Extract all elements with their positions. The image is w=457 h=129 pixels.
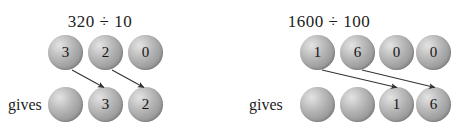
- sphere-top-left-3: 0: [128, 35, 163, 70]
- diagram-division-by-10: 320 ÷ 10 gives 3 2 0 3 2: [0, 0, 229, 129]
- digit-bottom-left-2: 3: [88, 87, 123, 122]
- arrow-shift-digit-3: [72, 70, 104, 88]
- digit-bottom-right-4: 6: [416, 87, 451, 122]
- gives-label-left: gives: [8, 96, 42, 114]
- digit-bottom-right-2: [340, 87, 375, 122]
- sphere-top-left-2: 2: [88, 35, 123, 70]
- digit-top-right-1: 1: [300, 35, 335, 70]
- arrow-shift-digit-6: [362, 70, 435, 88]
- sphere-top-right-1: 1: [300, 35, 335, 70]
- digit-bottom-right-1: [300, 87, 335, 122]
- sphere-top-right-3: 0: [379, 35, 414, 70]
- expression-320-divided-by-10: 320 ÷ 10: [0, 12, 200, 32]
- digit-top-right-3: 0: [379, 35, 414, 70]
- sphere-top-right-4: 0: [416, 35, 451, 70]
- digit-bottom-left-1: [48, 87, 83, 122]
- digit-top-left-2: 2: [88, 35, 123, 70]
- digit-bottom-left-3: 2: [128, 87, 163, 122]
- diagram-division-by-100: 1600 ÷ 100 gives 1 6 0 0: [229, 0, 457, 129]
- sphere-top-right-2: 6: [340, 35, 375, 70]
- gives-label-right: gives: [249, 96, 283, 114]
- digit-top-left-1: 3: [48, 35, 83, 70]
- sphere-bottom-right-4: 6: [416, 87, 451, 122]
- digit-top-left-3: 0: [128, 35, 163, 70]
- arrow-shift-digit-1: [322, 70, 397, 88]
- sphere-bottom-right-3: 1: [379, 87, 414, 122]
- sphere-bottom-right-1: [300, 87, 335, 122]
- sphere-bottom-left-3: 2: [128, 87, 163, 122]
- sphere-bottom-left-1: [48, 87, 83, 122]
- place-value-division-figure: 320 ÷ 10 gives 3 2 0 3 2: [0, 0, 457, 129]
- sphere-bottom-left-2: 3: [88, 87, 123, 122]
- digit-top-right-2: 6: [340, 35, 375, 70]
- sphere-bottom-right-2: [340, 87, 375, 122]
- arrow-shift-digit-2: [112, 70, 144, 88]
- digit-top-right-4: 0: [416, 35, 451, 70]
- sphere-top-left-1: 3: [48, 35, 83, 70]
- expression-1600-divided-by-100: 1600 ÷ 100: [229, 12, 429, 32]
- digit-bottom-right-3: 1: [379, 87, 414, 122]
